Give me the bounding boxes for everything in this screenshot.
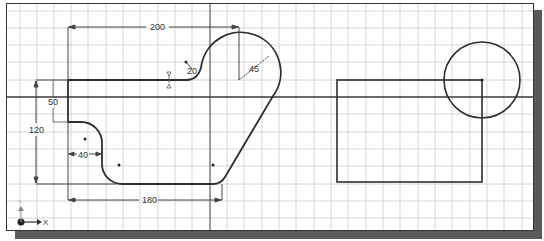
coordinate-triad-icon	[18, 206, 43, 226]
profile-outline[interactable]	[68, 32, 281, 184]
window-shadow-bottom	[15, 231, 542, 239]
dimension-180-label[interactable]: 180	[142, 195, 157, 205]
fillet-center-point[interactable]	[118, 164, 121, 167]
dimension-45-label[interactable]: 45	[249, 64, 259, 74]
circle-center-point[interactable]	[481, 79, 484, 82]
dimension-180[interactable]	[68, 122, 222, 202]
window-shadow-right	[534, 10, 542, 239]
fillet-center-point[interactable]	[84, 138, 87, 141]
dimension-50-label[interactable]: 50	[48, 97, 58, 107]
x-axis-label: X	[43, 218, 49, 227]
sketch-canvas[interactable]: 200 20 45 50 120 40 180	[6, 3, 534, 231]
sketch-svg[interactable]: 200 20 45 50 120 40 180	[7, 4, 534, 231]
y-axis-label: Y	[18, 199, 22, 205]
dimension-40-label[interactable]: 40	[78, 150, 88, 160]
dimension-200-label[interactable]: 200	[150, 22, 165, 32]
fillet-center-point[interactable]	[212, 164, 215, 167]
dimension-120-label[interactable]: 120	[29, 125, 44, 135]
rectangle-shape[interactable]	[337, 80, 482, 182]
grid	[7, 4, 534, 231]
dimension-200[interactable]	[68, 25, 239, 80]
dimension-20-label[interactable]: 20	[187, 66, 197, 76]
